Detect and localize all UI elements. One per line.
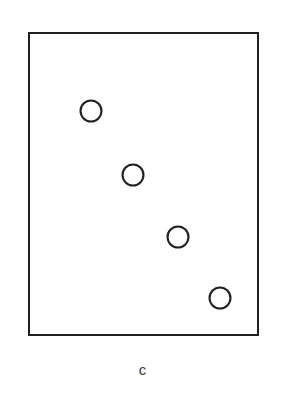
data-point-4	[210, 288, 231, 309]
figure-panel: c	[0, 0, 283, 400]
data-point-3	[168, 227, 189, 248]
data-point-1	[81, 101, 102, 122]
data-point-2	[123, 165, 144, 186]
scatter-plot-canvas	[0, 0, 283, 400]
panel-label: c	[1, 361, 283, 379]
